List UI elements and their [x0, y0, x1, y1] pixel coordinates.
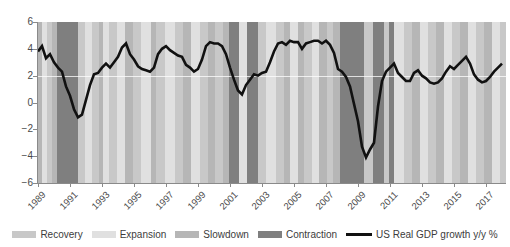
legend-label: Contraction [286, 229, 337, 240]
y-tick-label: −4 [3, 151, 33, 161]
y-tick-mark [33, 22, 37, 23]
y-tick-label: 6 [3, 17, 33, 27]
y-axis-line [37, 22, 38, 184]
legend-label: US Real GDP growth y/y % [376, 229, 498, 240]
x-tick-mark [390, 183, 391, 187]
legend-label: Slowdown [203, 229, 249, 240]
y-tick-label: 4 [3, 44, 33, 54]
legend-label: Expansion [120, 229, 167, 240]
legend-item[interactable]: US Real GDP growth y/y % [346, 229, 498, 240]
legend-color-swatch [175, 231, 199, 238]
x-tick-mark [198, 183, 199, 187]
legend-label: Recovery [40, 229, 82, 240]
gdp-growth-line [38, 22, 506, 183]
x-axis: 1989199119931995199719992001200320052007… [0, 183, 510, 223]
x-tick-mark [38, 183, 39, 187]
y-tick-mark [33, 103, 37, 104]
x-tick-mark [70, 183, 71, 187]
x-tick-mark [230, 183, 231, 187]
y-tick-mark [33, 76, 37, 77]
y-tick-label: −2 [3, 124, 33, 134]
y-tick-mark [33, 183, 37, 184]
chart-root: 6420−2−4−6 19891991199319951997199920012… [0, 0, 510, 247]
legend-item[interactable]: Slowdown [175, 229, 249, 240]
y-tick-mark [33, 156, 37, 157]
x-tick-mark [326, 183, 327, 187]
x-tick-mark [486, 183, 487, 187]
x-tick-mark [294, 183, 295, 187]
legend-item[interactable]: Recovery [12, 229, 82, 240]
x-tick-mark [358, 183, 359, 187]
legend-line-marker [346, 233, 372, 236]
y-tick-mark [33, 129, 37, 130]
legend-color-swatch [258, 231, 282, 238]
x-tick-mark [102, 183, 103, 187]
y-tick-label: 2 [3, 71, 33, 81]
legend-color-swatch [92, 231, 116, 238]
x-tick-mark [166, 183, 167, 187]
legend-color-swatch [12, 231, 36, 238]
legend-item[interactable]: Expansion [92, 229, 167, 240]
x-tick-mark [454, 183, 455, 187]
y-tick-label: 0 [3, 98, 33, 108]
y-tick-mark [33, 49, 37, 50]
chart-legend: RecoveryExpansionSlowdownContractionUS R… [0, 226, 510, 242]
x-tick-mark [262, 183, 263, 187]
legend-item[interactable]: Contraction [258, 229, 337, 240]
plot-area [38, 22, 506, 183]
chart-figure: 6420−2−4−6 19891991199319951997199920012… [0, 0, 510, 247]
x-tick-mark [134, 183, 135, 187]
x-tick-mark [422, 183, 423, 187]
